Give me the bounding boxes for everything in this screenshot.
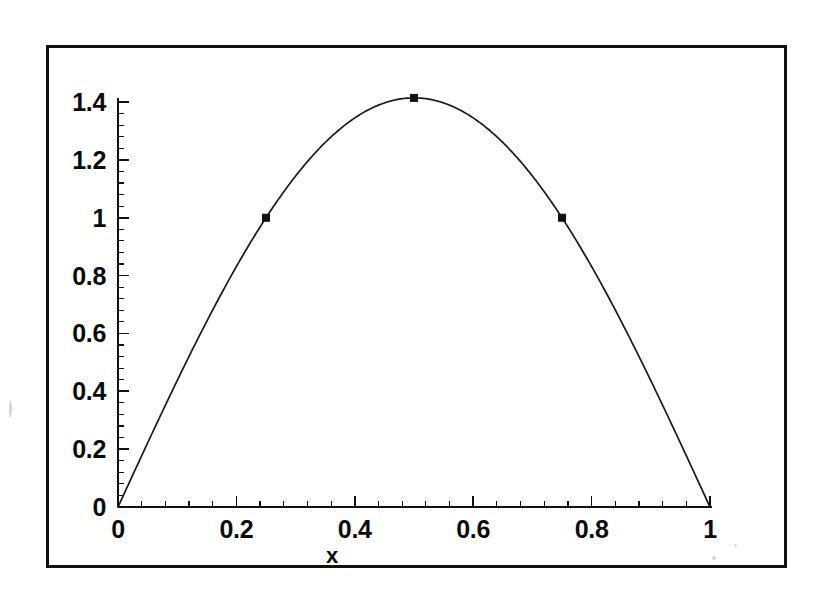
data-point-marker [411,94,418,101]
data-curve-line [118,98,710,507]
plot-drawing-surface [0,0,826,601]
y-tick-label: 1 [10,203,106,232]
x-tick-label: 0.6 [456,515,490,544]
x-tick-label: 0.8 [575,515,609,544]
data-point-marker [263,214,270,221]
y-tick-label: 1.2 [10,145,106,174]
x-tick-label: 0 [111,515,125,544]
y-tick-label: 0.4 [10,377,106,406]
y-axis-ticks [118,102,129,507]
x-tick-label: 0.4 [338,515,372,544]
scan-speckle [734,544,737,547]
scan-speckle [712,556,716,560]
y-tick-label: 0 [10,493,106,522]
data-point-marker [559,214,566,221]
scan-speckle [9,400,12,418]
x-tick-label: 1 [703,515,717,544]
x-axis-title: x [326,543,338,569]
data-point-markers [263,94,566,221]
y-tick-label: 0.6 [10,319,106,348]
y-tick-label: 0.8 [10,261,106,290]
figure-canvas: 00.20.40.60.811.21.4 00.20.40.60.81 x [0,0,826,601]
x-tick-label: 0.2 [219,515,253,544]
y-tick-label: 0.2 [10,435,106,464]
y-tick-label: 1.4 [10,88,106,117]
x-axis-ticks [118,496,710,507]
